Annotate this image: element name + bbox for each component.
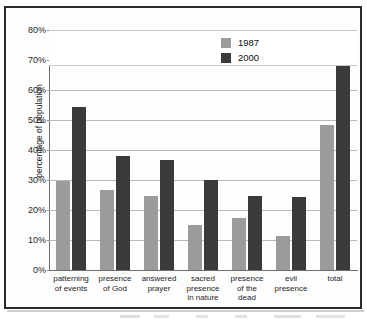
y-tick-label: 70% [28,55,46,65]
frame-shadow [7,310,364,312]
x-tick-label: evil presence [269,274,313,293]
x-tick-label: sacred presence in nature [181,274,225,303]
legend-item: 2000 [221,51,259,64]
scan-artifact [120,315,365,318]
y-tick-label: 60% [28,85,46,95]
y-tick-label: 50% [28,115,46,125]
y-tick-label: 20% [28,205,46,215]
x-tick-label: total [313,274,357,284]
y-tick-label: 10% [28,235,46,245]
legend-label: 2000 [238,52,259,63]
chart-legend: 19872000 [49,30,357,66]
x-axis-line [49,270,358,271]
legend-swatch-icon [221,38,231,48]
plot-area [49,30,357,270]
legend-swatch-icon [221,53,231,63]
bar-chart: percentage of population 80%70%60%50%40%… [6,8,364,311]
legend-entries: 19872000 [221,36,259,66]
y-tick-label: 0% [33,265,46,275]
x-tick-label: presence of the dead [225,274,269,303]
x-tick-label: patterning of events [49,274,93,293]
screenshot-root: percentage of population 80%70%60%50%40%… [0,0,367,322]
bar-2000-6 [336,39,351,270]
bar-group [49,30,357,270]
y-tick-label: 30% [28,175,46,185]
chart-frame: percentage of population 80%70%60%50%40%… [4,6,362,309]
legend-label: 1987 [238,37,259,48]
y-tick-label: 80% [28,25,46,35]
x-tick-label: answered prayer [137,274,181,293]
y-tick-label: 40% [28,145,46,155]
x-tick-label: presence of God [93,274,137,293]
bar-1987-6 [320,125,335,270]
y-axis-ticks: 80%70%60%50%40%30%20%10%0% [6,8,46,270]
legend-item: 1987 [221,36,259,49]
